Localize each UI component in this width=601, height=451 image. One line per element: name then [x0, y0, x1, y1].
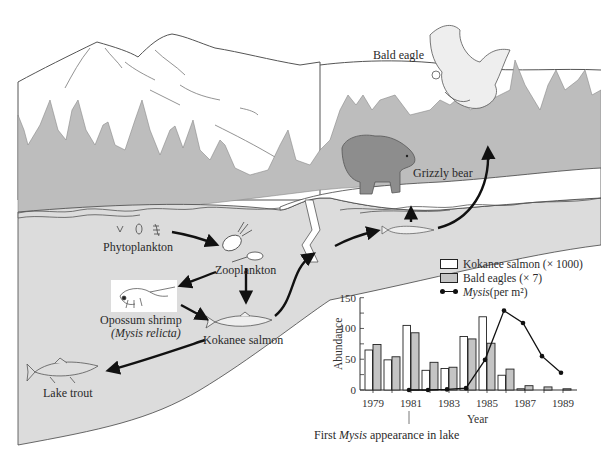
legend-eagles: Bald eagles (× 7)	[440, 271, 583, 284]
svg-text:1985: 1985	[476, 397, 499, 409]
lake-trout-icon	[27, 358, 98, 383]
arrow-lake-to-salmon	[335, 231, 376, 246]
label-zooplankton: Zooplankton	[215, 263, 276, 278]
label-grizzly-bear: Grizzly bear	[413, 166, 473, 181]
salmon-river-icon	[382, 226, 434, 234]
svg-text:1983: 1983	[438, 397, 461, 409]
label-mysis-relicta: (Mysis relicta)	[111, 326, 181, 341]
label-lake-trout: Lake trout	[43, 386, 93, 401]
legend-mysis: Mysis (per m²)	[440, 285, 583, 298]
svg-text:0: 0	[351, 384, 357, 396]
arrow-kokanee-to-river	[275, 255, 312, 316]
arrow-phyto-to-zoo	[172, 232, 215, 244]
zooplankton-icon	[220, 222, 263, 262]
svg-text:1989: 1989	[552, 397, 575, 409]
label-bald-eagle: Bald eagle	[373, 48, 424, 63]
phytoplankton-icon	[117, 224, 160, 236]
bald-eagle-icon	[430, 25, 510, 108]
svg-text:Abundance: Abundance	[332, 318, 344, 370]
label-kokanee-salmon: Kokanee salmon	[203, 333, 283, 348]
eagle-swatch	[440, 273, 458, 283]
kokanee-swatch	[440, 259, 458, 269]
arrow-zoo-to-shrimp	[182, 272, 216, 285]
arrow-shrimp-to-kokanee	[181, 305, 205, 318]
svg-text:Year: Year	[467, 413, 488, 425]
legend-kokanee: Kokanee salmon (× 1000)	[440, 257, 583, 270]
abundance-chart: Kokanee salmon (× 1000) Bald eagles (× 7…	[330, 255, 601, 451]
arrow-kokanee-to-trout	[110, 340, 205, 370]
svg-text:1979: 1979	[362, 397, 385, 409]
svg-text:1987: 1987	[514, 397, 537, 409]
first-mysis-annotation: First Mysis appearance in lake	[314, 428, 459, 443]
arrow-salmon-to-eagle	[438, 150, 488, 228]
chart-legend: Kokanee salmon (× 1000) Bald eagles (× 7…	[440, 257, 583, 299]
svg-text:1981: 1981	[400, 397, 422, 409]
mysis-line-swatch	[440, 287, 458, 297]
grizzly-bear-icon	[342, 135, 415, 194]
label-phytoplankton: Phytoplankton	[103, 240, 173, 255]
kokanee-salmon-icon	[206, 312, 272, 328]
svg-text:150: 150	[340, 292, 357, 304]
svg-text:50: 50	[345, 353, 357, 365]
